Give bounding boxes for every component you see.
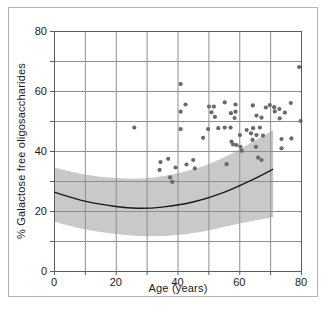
data-point	[254, 114, 258, 118]
data-point	[238, 133, 242, 137]
data-point	[251, 103, 255, 107]
x-tick-label: 80	[295, 276, 307, 288]
data-point	[261, 134, 265, 138]
data-point	[179, 82, 183, 86]
data-point	[277, 107, 281, 111]
y-tick-label: 60	[35, 85, 47, 97]
data-point	[278, 116, 282, 120]
chart-canvas: 020406080020406080	[0, 0, 334, 318]
data-point	[258, 126, 262, 130]
data-point	[238, 145, 242, 149]
data-point	[206, 127, 210, 131]
data-point	[297, 65, 301, 69]
data-point	[233, 116, 237, 120]
data-point	[268, 103, 272, 107]
x-tick-label: 60	[233, 276, 245, 288]
y-axis-title: % Galactose free oligosaccharides	[15, 63, 27, 239]
data-point	[223, 100, 227, 104]
x-axis-title: Age (years)	[148, 282, 207, 294]
data-point	[240, 149, 244, 153]
x-tick-label: 0	[51, 276, 57, 288]
data-point	[259, 158, 263, 162]
data-point	[174, 165, 178, 169]
data-point	[229, 111, 233, 115]
data-point	[249, 131, 253, 135]
data-point	[158, 160, 162, 164]
data-point	[289, 136, 293, 140]
x-tick-label: 20	[110, 276, 122, 288]
data-point	[279, 137, 283, 141]
data-point	[158, 168, 162, 172]
data-point	[166, 157, 170, 161]
data-point	[179, 110, 183, 114]
data-point	[259, 116, 263, 120]
data-point	[233, 102, 237, 106]
data-point	[216, 126, 220, 130]
chart-figure: 020406080020406080 % Galactose free olig…	[0, 0, 334, 318]
data-point	[183, 102, 187, 106]
data-point	[170, 180, 174, 184]
data-point	[289, 101, 293, 105]
data-point	[233, 110, 237, 114]
y-tick-label: 80	[35, 25, 47, 37]
data-point	[254, 133, 258, 137]
data-point	[193, 166, 197, 170]
data-point	[299, 119, 303, 123]
data-point	[256, 156, 260, 160]
data-point	[191, 158, 195, 162]
data-point	[179, 127, 183, 131]
y-tick-label: 0	[41, 265, 47, 277]
data-point	[213, 115, 217, 119]
data-point	[254, 145, 258, 149]
data-point	[273, 109, 277, 113]
y-tick-label: 20	[35, 205, 47, 217]
data-point	[168, 175, 172, 179]
data-point	[272, 105, 276, 109]
data-point	[223, 126, 227, 130]
data-point	[207, 105, 211, 109]
data-point	[209, 110, 213, 114]
data-point	[231, 142, 235, 146]
data-point	[184, 162, 188, 166]
data-point	[225, 162, 229, 166]
data-point	[250, 138, 254, 142]
data-point	[212, 105, 216, 109]
data-point	[132, 126, 136, 130]
data-point	[264, 105, 268, 109]
data-point	[283, 111, 287, 115]
data-point	[251, 126, 255, 130]
data-point	[279, 146, 283, 150]
data-point	[229, 126, 233, 130]
data-point	[245, 128, 249, 132]
data-point	[201, 136, 205, 140]
y-tick-label: 40	[35, 145, 47, 157]
